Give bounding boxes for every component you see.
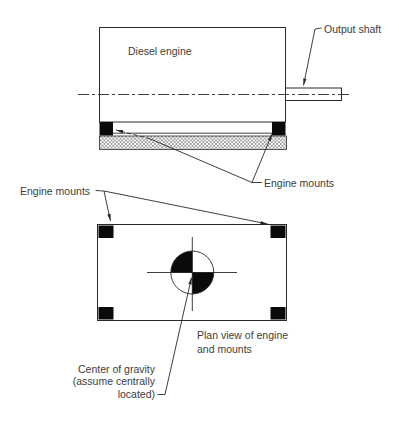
- engine-mount-plan-bottom-right: [271, 307, 286, 320]
- engine-mounts-diagram: Diesel engine Output shaft Engine mounts…: [0, 0, 399, 421]
- plan-view-caption-line2: and mounts: [197, 343, 288, 357]
- ground-hatch: [100, 136, 287, 150]
- plan-view-caption: Plan view of engine and mounts: [197, 329, 288, 356]
- plan-view-caption-line1: Plan view of engine: [197, 329, 288, 343]
- center-of-gravity-label-line2: (assume centrally: [73, 375, 155, 387]
- engine-mount-plan-bottom-left: [99, 307, 114, 320]
- output-shaft-leader-line: [304, 28, 322, 86]
- center-of-gravity-label-line3: located): [73, 388, 155, 400]
- engine-mount-plan-top-left: [99, 226, 114, 239]
- engine-mount-side-left: [100, 122, 114, 136]
- output-shaft-label: Output shaft: [324, 23, 381, 36]
- engine-mounts-plan-leader-left-arrow: [104, 191, 111, 221]
- engine-mounts-plan-leader-tick: [96, 191, 105, 192]
- center-of-gravity-label-line1: Center of gravity: [73, 363, 155, 375]
- engine-body-outline: [100, 28, 286, 123]
- engine-mount-plan-top-right: [271, 226, 286, 239]
- engine-mounts-plan-label: Engine mounts: [20, 185, 90, 198]
- engine-mounts-side-label: Engine mounts: [264, 177, 334, 190]
- engine-mounts-plan-leader-right-arrow: [104, 191, 268, 224]
- center-of-gravity-label: Center of gravity (assume centrally loca…: [73, 363, 155, 400]
- diesel-engine-label: Diesel engine: [128, 45, 192, 58]
- diagram-linework: [0, 0, 399, 421]
- engine-mount-side-right: [272, 122, 286, 136]
